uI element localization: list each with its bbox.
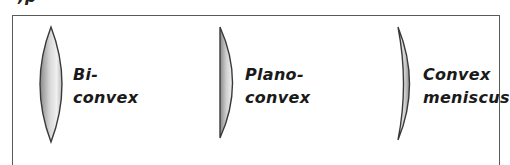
plano-convex-label: Plano- convex [245, 63, 310, 109]
convex-meniscus-lens-icon [398, 27, 410, 140]
plano-convex-label-line2: convex [245, 86, 310, 109]
biconvex-label-line1: Bi- [73, 63, 138, 86]
convex-meniscus-label: Convex meniscus [423, 63, 510, 109]
biconvex-label: Bi- convex [73, 63, 138, 109]
biconvex-lens-icon [40, 27, 62, 142]
biconvex-label-line2: convex [73, 86, 138, 109]
convex-meniscus-label-line2: meniscus [423, 86, 510, 109]
plano-convex-lens-icon [220, 27, 233, 138]
convex-meniscus-label-line1: Convex [423, 63, 510, 86]
plano-convex-label-line1: Plano- [245, 63, 310, 86]
